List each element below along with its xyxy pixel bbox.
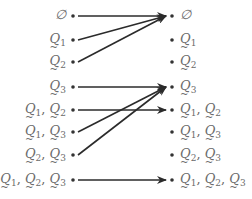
node-dot-L1 — [71, 38, 75, 42]
node-dot-L0 — [71, 14, 75, 18]
node-dot-R0 — [170, 14, 174, 18]
left-node-label: Q3 — [0, 79, 66, 97]
node-dot-R4 — [170, 108, 174, 112]
node-dot-R5 — [170, 130, 174, 134]
node-dot-R1 — [170, 38, 174, 42]
right-node-label: Q3 — [180, 79, 196, 97]
edge-L1-R0 — [78, 16, 166, 40]
node-dot-R7 — [170, 178, 174, 182]
left-node-label: Q1 — [0, 32, 66, 50]
left-node-label: Q1, Q2, Q3 — [0, 172, 66, 190]
node-dot-R3 — [170, 85, 174, 89]
node-dot-L5 — [71, 130, 75, 134]
right-node-label: Q1, Q3 — [180, 124, 221, 142]
left-node-label: Q1, Q2 — [0, 102, 66, 120]
node-dot-L4 — [71, 108, 75, 112]
left-node-label: Q2 — [0, 54, 66, 72]
right-node-label: Q1, Q2, Q3 — [180, 172, 246, 190]
right-node-label: Q2, Q3 — [180, 147, 221, 165]
right-node-label: Q1 — [180, 32, 196, 50]
left-node-label: ∅ — [0, 8, 66, 22]
left-node-label: Q2, Q3 — [0, 147, 66, 165]
mapping-diagram: ∅Q1Q2Q3Q1, Q2Q1, Q3Q2, Q3Q1, Q2, Q3 ∅Q1Q… — [0, 0, 252, 199]
node-dot-L7 — [71, 178, 75, 182]
right-node-label: Q1, Q2 — [180, 102, 221, 120]
node-dot-L3 — [71, 85, 75, 89]
left-node-label: Q1, Q3 — [0, 124, 66, 142]
right-node-label: ∅ — [180, 8, 191, 22]
node-dot-R2 — [170, 60, 174, 64]
node-dot-R6 — [170, 153, 174, 157]
right-node-label: Q2 — [180, 54, 196, 72]
node-dot-L2 — [71, 60, 75, 64]
edges-layer — [0, 0, 252, 199]
edge-L6-R3 — [78, 87, 166, 155]
node-dot-L6 — [71, 153, 75, 157]
edge-L2-R0 — [78, 16, 166, 62]
